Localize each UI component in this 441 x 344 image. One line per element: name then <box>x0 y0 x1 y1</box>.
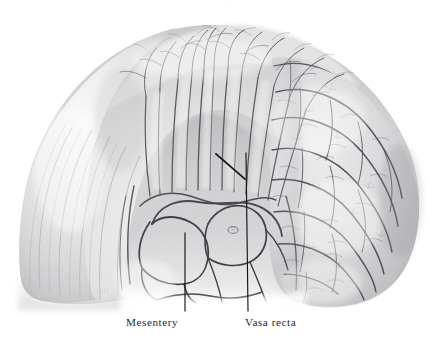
artist-signature: Jim Hall <box>78 287 110 297</box>
anatomical-figure: · · Jim Hall Mesentery Vasa recta <box>0 0 441 344</box>
top-caption-remnant: · · <box>228 0 298 8</box>
label-mesentery: Mesentery <box>126 317 178 328</box>
label-vasa-recta: Vasa recta <box>245 317 296 328</box>
illustration-canvas <box>0 0 441 344</box>
